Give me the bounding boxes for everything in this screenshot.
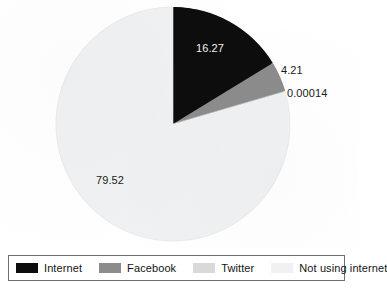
legend-item-facebook: Facebook (99, 262, 176, 274)
legend-item-twitter: Twitter (193, 262, 254, 274)
chart-legend: Internet Facebook Twitter Not using inte… (8, 255, 345, 281)
legend-item-not-using-internet: Not using internet (271, 262, 387, 274)
slice-value-internet: 16.27 (196, 42, 224, 54)
pie-chart-svg (0, 0, 359, 248)
slice-value-facebook: 4.21 (281, 64, 303, 76)
legend-swatch-internet (16, 263, 38, 273)
legend-label-twitter: Twitter (221, 262, 254, 274)
legend-swatch-not-using-internet (271, 263, 293, 273)
legend-label-internet: Internet (44, 262, 82, 274)
pie-chart: 16.27 4.21 0.00014 79.52 (0, 0, 359, 248)
legend-swatch-twitter (193, 263, 215, 273)
slice-value-not-using-internet: 79.52 (96, 174, 124, 186)
legend-label-not-using-internet: Not using internet (299, 262, 387, 274)
pie-wedges (56, 7, 290, 241)
legend-swatch-facebook (99, 263, 121, 273)
legend-label-facebook: Facebook (127, 262, 176, 274)
slice-value-twitter: 0.00014 (287, 87, 327, 99)
legend-item-internet: Internet (16, 262, 82, 274)
